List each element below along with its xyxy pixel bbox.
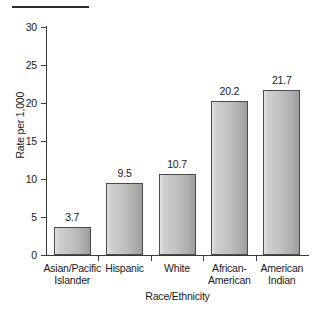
y-axis-tick-label: 30 — [0, 22, 37, 33]
bar-value-label: 3.7 — [42, 212, 102, 223]
bar-value-label: 20.2 — [199, 86, 259, 97]
bar — [54, 227, 91, 255]
bar — [106, 183, 143, 255]
y-axis-tick-label: 0 — [0, 250, 37, 261]
x-axis-category-label: African- American — [199, 262, 259, 286]
plot-area: 3.79.510.720.221.7 — [46, 27, 308, 255]
bar — [159, 174, 196, 255]
bar-value-label: 10.7 — [147, 159, 207, 170]
x-axis-tick — [98, 256, 99, 261]
x-axis-tick — [203, 256, 204, 261]
x-axis-line — [46, 255, 309, 256]
bar — [211, 101, 248, 255]
x-axis-tick — [256, 256, 257, 261]
top-horizontal-rule — [12, 6, 89, 8]
bar — [263, 90, 300, 255]
bar-chart-figure: 051015202530 3.79.510.720.221.7 Asian/Pa… — [0, 0, 323, 318]
x-axis-tick — [151, 256, 152, 261]
y-axis-title: Rate per 1,000 — [15, 60, 26, 190]
y-axis-tick-label: 5 — [0, 212, 37, 223]
x-axis-category-label: White — [147, 262, 207, 274]
bar-value-label: 21.7 — [252, 75, 312, 86]
x-axis-title: Race/Ethnicity — [46, 291, 309, 302]
bar-value-label: 9.5 — [95, 168, 155, 179]
x-axis-category-label: Asian/Pacific Islander — [42, 262, 102, 286]
x-axis-category-label: American Indian — [252, 262, 312, 286]
x-axis-category-label: Hispanic — [94, 262, 154, 274]
